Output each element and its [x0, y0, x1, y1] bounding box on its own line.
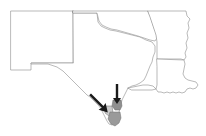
map-figure: [0, 0, 206, 136]
state-new-mexico: [11, 11, 73, 70]
map-svg: [0, 0, 206, 136]
